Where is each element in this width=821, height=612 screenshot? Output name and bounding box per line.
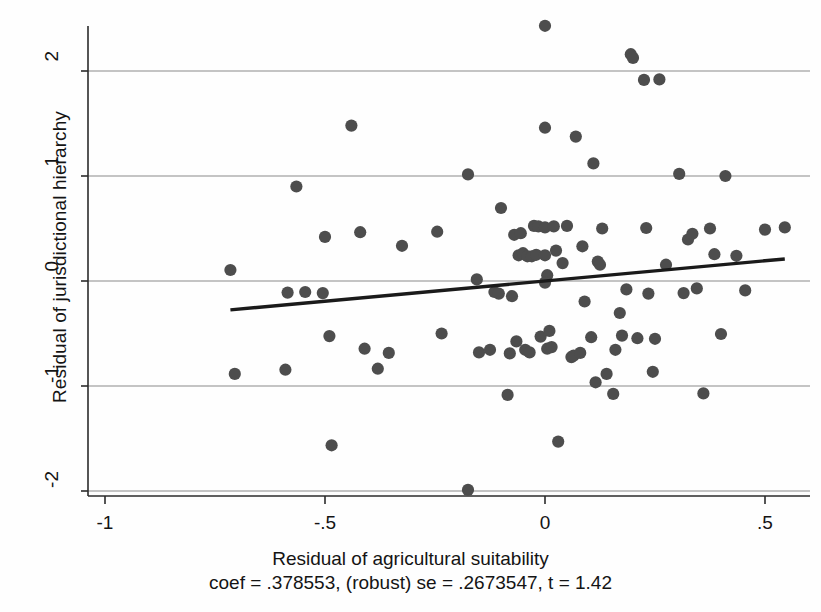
- data-point: [546, 341, 558, 353]
- data-point: [372, 363, 384, 375]
- data-point: [319, 231, 331, 243]
- data-point: [506, 290, 518, 302]
- regression-stats-caption: coef = .378553, (robust) se = .2673547, …: [0, 572, 821, 594]
- data-point: [524, 346, 536, 358]
- data-point: [561, 220, 573, 232]
- data-point: [462, 484, 474, 496]
- regression-fit-line: [230, 259, 784, 310]
- data-point: [299, 286, 311, 298]
- data-point: [631, 332, 643, 344]
- data-point: [359, 343, 371, 355]
- axis-lines-group: [88, 26, 810, 496]
- data-point: [678, 287, 690, 299]
- data-point: [502, 389, 514, 401]
- data-point: [614, 307, 626, 319]
- data-point: [574, 347, 586, 359]
- data-point: [739, 284, 751, 296]
- data-point: [473, 346, 485, 358]
- data-point: [673, 168, 685, 180]
- data-point: [640, 222, 652, 234]
- data-point: [436, 327, 448, 339]
- y-tick-label-3: 1: [41, 156, 63, 196]
- data-point: [570, 131, 582, 143]
- data-point: [510, 335, 522, 347]
- data-point: [431, 226, 443, 238]
- data-point: [323, 330, 335, 342]
- data-point: [326, 439, 338, 451]
- data-point: [730, 250, 742, 262]
- y-tick-label-4: 2: [41, 51, 63, 91]
- data-point: [638, 74, 650, 86]
- data-point: [484, 344, 496, 356]
- fit-line-group: [230, 259, 784, 310]
- tick-marks-group: [81, 71, 765, 504]
- data-point: [691, 282, 703, 294]
- data-point: [317, 287, 329, 299]
- y-tick-label-1: -1: [41, 366, 63, 406]
- data-point: [354, 226, 366, 238]
- data-point: [719, 170, 731, 182]
- data-point: [462, 168, 474, 180]
- y-tick-label-2: 0: [41, 261, 63, 301]
- data-point: [396, 240, 408, 252]
- data-point: [229, 368, 241, 380]
- data-point: [471, 273, 483, 285]
- data-point: [649, 333, 661, 345]
- x-tick-label-1: -.5: [295, 512, 355, 534]
- data-point: [383, 347, 395, 359]
- x-tick-label-0: -1: [75, 512, 135, 534]
- data-point: [620, 283, 632, 295]
- gridlines-group: [88, 71, 810, 491]
- data-point: [647, 366, 659, 378]
- x-tick-label-2: 0: [515, 512, 575, 534]
- data-point: [609, 344, 621, 356]
- data-point: [539, 249, 551, 261]
- data-point: [585, 331, 597, 343]
- data-point: [616, 330, 628, 342]
- data-point: [642, 288, 654, 300]
- data-point: [779, 221, 791, 233]
- data-point: [704, 222, 716, 234]
- data-point: [279, 364, 291, 376]
- data-point: [539, 20, 551, 32]
- data-point: [590, 376, 602, 388]
- data-point: [697, 387, 709, 399]
- data-point: [493, 288, 505, 300]
- data-point: [495, 202, 507, 214]
- data-point: [715, 328, 727, 340]
- data-point: [627, 52, 639, 64]
- data-point: [282, 287, 294, 299]
- data-point: [607, 388, 619, 400]
- y-tick-label-0: -2: [41, 471, 63, 511]
- data-point: [290, 180, 302, 192]
- data-point: [515, 227, 527, 239]
- data-point: [708, 248, 720, 260]
- data-point: [686, 228, 698, 240]
- chart-container: Residual of jurisdictional hierarchy -1-…: [0, 0, 821, 612]
- data-point: [345, 120, 357, 132]
- data-point: [543, 325, 555, 337]
- x-tick-label-3: .5: [735, 512, 795, 534]
- data-point: [557, 257, 569, 269]
- data-point: [539, 122, 551, 134]
- data-point: [587, 157, 599, 169]
- data-point: [601, 368, 613, 380]
- data-point: [576, 240, 588, 252]
- data-point: [653, 73, 665, 85]
- data-point: [579, 295, 591, 307]
- data-point: [550, 245, 562, 257]
- data-point: [552, 436, 564, 448]
- data-point: [504, 347, 516, 359]
- x-axis-label: Residual of agricultural suitability: [0, 548, 821, 570]
- data-point: [594, 259, 606, 271]
- data-point: [224, 264, 236, 276]
- data-point: [548, 220, 560, 232]
- data-points-group: [224, 20, 791, 496]
- data-point: [759, 224, 771, 236]
- data-point: [596, 222, 608, 234]
